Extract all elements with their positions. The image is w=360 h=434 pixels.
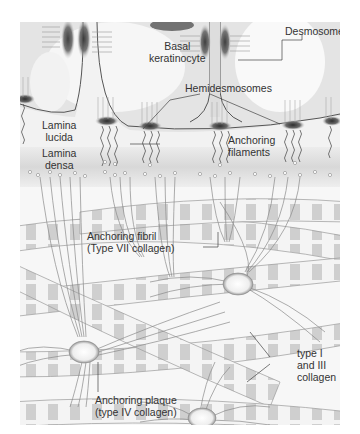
label-collagen-line2: and III [297, 359, 336, 371]
label-lamina-densa-line1: Lamina [42, 147, 76, 159]
label-anchoring-fibril: Anchoring fibril (Type VII collagen) [87, 230, 175, 254]
dermal-epidermal-junction-diagram: Basal keratinocyte Desmosome Hemidesmoso… [20, 22, 340, 425]
diagram-artwork [20, 22, 340, 425]
label-desmosome: Desmosome [285, 25, 340, 37]
label-lamina-lucida-line2: lucida [42, 131, 76, 143]
label-anchoring-plaque-line2: (type IV collagen) [95, 406, 177, 418]
label-anchoring-filaments-line1: Anchoring [228, 134, 275, 146]
label-basal-line2: keratinocyte [149, 52, 206, 64]
label-anchoring-fibril-line2: (Type VII collagen) [87, 242, 175, 254]
label-anchoring-filaments: Anchoring filaments [228, 134, 275, 158]
label-basal-line1: Basal [149, 40, 206, 52]
label-anchoring-filaments-line2: filaments [228, 146, 275, 158]
label-anchoring-fibril-line1: Anchoring fibril [87, 230, 175, 242]
label-lamina-densa: Lamina densa [42, 147, 76, 171]
label-anchoring-plaque: Anchoring plaque (type IV collagen) [95, 394, 177, 418]
label-hemidesmosomes: Hemidesmosomes [185, 82, 272, 94]
label-lamina-lucida-line1: Lamina [42, 119, 76, 131]
label-lamina-densa-line2: densa [42, 159, 76, 171]
label-collagen-line1: type I [297, 347, 336, 359]
label-type-i-iii-collagen: type I and III collagen [297, 347, 336, 383]
label-basal-keratinocyte: Basal keratinocyte [149, 40, 206, 64]
label-collagen-line3: collagen [297, 371, 336, 383]
label-lamina-lucida: Lamina lucida [42, 119, 76, 143]
label-anchoring-plaque-line1: Anchoring plaque [95, 394, 177, 406]
